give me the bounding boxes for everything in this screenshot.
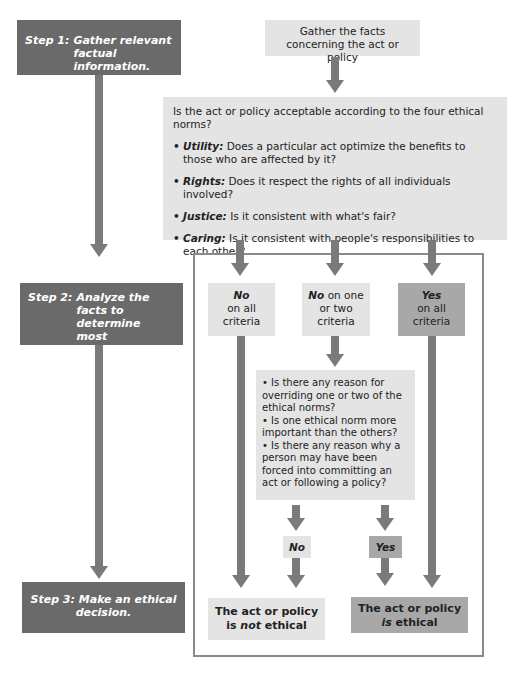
arrow-down-icon <box>423 575 441 588</box>
outcome-ethical-line1: The act or policy <box>358 602 461 615</box>
arrow-shaft-sub-no <box>292 505 300 519</box>
arrow-down-icon <box>231 263 249 276</box>
step-2-prefix: Step 2: <box>28 291 72 369</box>
norm-justice-name: Justice: <box>183 210 227 222</box>
decision-yes-all-bold: Yes <box>422 289 442 301</box>
norm-rights-name: Rights: <box>183 175 225 187</box>
step-2-text: Analyze the facts to determine most appr… <box>76 291 175 369</box>
arrow-shaft-sub <box>331 336 339 355</box>
arrow-down-icon <box>287 518 305 531</box>
norm-utility-text: Does a particular act optimize the benef… <box>183 140 465 165</box>
outcome-not-ethical-pre: is <box>226 619 240 632</box>
decision-no-some-bold: No <box>308 289 324 301</box>
arrow-shaft-yes-all-outcome <box>428 336 436 576</box>
arrow-shaft-no-some <box>331 240 339 264</box>
override-question-2: • Is one ethical norm more important tha… <box>262 415 409 440</box>
override-question-2-text: Is one ethical norm more important than … <box>262 415 397 439</box>
gather-facts-text: Gather the facts concerning the act or p… <box>286 25 398 63</box>
sub-answer-no: No <box>283 536 311 558</box>
norm-justice-text: Is it consistent with what's fair? <box>230 210 396 222</box>
ethical-norms-box: Is the act or policy acceptable accordin… <box>163 97 507 240</box>
step-1-text: Gather relevant factual information. <box>73 34 173 73</box>
norms-question: Is the act or policy acceptable accordin… <box>173 105 497 131</box>
step-2-box: Step 2:Analyze the facts to determine mo… <box>20 283 183 345</box>
outcome-ethical: The act or policy is ethical <box>351 597 468 633</box>
arrow-down-icon <box>326 263 344 276</box>
arrow-down-icon <box>326 354 344 367</box>
outcome-ethical-em: is <box>381 616 391 629</box>
arrow-down-icon <box>90 566 108 579</box>
arrow-shaft-yes-outcome <box>381 558 389 574</box>
arrow-down-icon <box>287 575 305 588</box>
override-questions-box: • Is there any reason for overriding one… <box>256 370 415 500</box>
arrow-shaft-step1-step2 <box>95 75 103 245</box>
step-3-text: Make an ethical decision. <box>76 593 177 619</box>
arrow-shaft-step2-step3 <box>95 345 103 567</box>
override-question-1-text: Is there any reason for overriding one o… <box>262 377 402 413</box>
step-3-box: Step 3: Make an ethical decision. <box>22 582 185 633</box>
arrow-down-icon <box>326 80 344 93</box>
decision-no-some: No on one or two criteria <box>302 283 370 336</box>
gather-facts-box: Gather the facts concerning the act or p… <box>265 20 420 56</box>
step-1-box: Step 1:Gather relevant factual informati… <box>17 20 181 75</box>
arrow-down-icon <box>376 518 394 531</box>
arrow-down-icon <box>232 575 250 588</box>
decision-no-all: No on all criteria <box>208 283 275 336</box>
decision-yes-all-text: on all criteria <box>413 302 450 327</box>
arrow-shaft-no-all <box>236 240 244 264</box>
outcome-not-ethical-em: not <box>240 619 261 632</box>
norm-caring-name: Caring: <box>183 232 226 244</box>
arrow-shaft-no-all-outcome <box>237 336 245 576</box>
step-3-prefix: Step 3: <box>31 593 75 606</box>
override-question-1: • Is there any reason for overriding one… <box>262 377 409 415</box>
outcome-ethical-post: ethical <box>392 616 438 629</box>
arrow-down-icon <box>90 244 108 257</box>
decision-no-all-bold: No <box>233 289 249 301</box>
arrow-shaft-gather <box>331 57 339 81</box>
outcome-not-ethical-post: ethical <box>261 619 307 632</box>
sub-answer-yes: Yes <box>369 536 402 558</box>
step-1-prefix: Step 1: <box>25 34 69 73</box>
arrow-shaft-yes-all <box>428 240 436 264</box>
outcome-not-ethical: The act or policy is not ethical <box>208 598 325 640</box>
arrow-down-icon <box>376 573 394 586</box>
decision-no-some-text: on one or two criteria <box>317 289 363 327</box>
norm-justice: •Justice: Is it consistent with what's f… <box>173 210 497 223</box>
arrow-shaft-no-outcome <box>292 558 300 576</box>
outcome-not-ethical-line1: The act or policy <box>215 605 318 618</box>
arrow-down-icon <box>423 263 441 276</box>
decision-no-all-text: on all criteria <box>223 302 260 327</box>
norm-utility-name: Utility: <box>183 140 223 152</box>
arrow-shaft-sub-yes <box>381 505 389 519</box>
norm-utility: •Utility: Does a particular act optimize… <box>173 140 497 166</box>
override-question-3-text: Is there any reason why a person may hav… <box>262 440 400 489</box>
decision-yes-all: Yes on all criteria <box>398 283 465 336</box>
override-question-3: • Is there any reason why a person may h… <box>262 440 409 490</box>
norm-rights: •Rights: Does it respect the rights of a… <box>173 175 497 201</box>
